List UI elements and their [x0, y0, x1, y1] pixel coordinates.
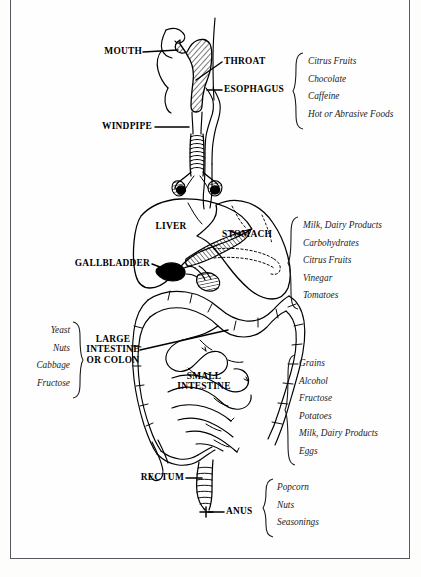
food-item: Nuts: [14, 340, 70, 358]
food-list-large-intestine-irritants: Yeast Nuts Cabbage Fructose: [14, 322, 70, 392]
food-item: Hot or Abrasive Foods: [308, 106, 393, 124]
organ-label-esophagus: ESOPHAGUS: [224, 84, 284, 94]
food-item: Citrus Fruits: [308, 53, 393, 71]
diagram-page: MOUTH THROAT ESOPHAGUS WINDPIPE LIVER ST…: [0, 0, 421, 577]
food-item: Fructose: [14, 375, 70, 393]
food-item: Nuts: [277, 497, 319, 515]
food-item: Fructose: [299, 390, 378, 408]
food-list-small-intestine-irritants: Grains Alcohol Fructose Potatoes Milk, D…: [299, 355, 378, 461]
food-item: Alcohol: [299, 373, 378, 391]
food-list-esophagus-irritants: Citrus Fruits Chocolate Caffeine Hot or …: [308, 53, 393, 123]
organ-label-gallbladder: GALLBLADDER: [22, 258, 150, 268]
organ-label-rectum: RECTUM: [112, 472, 184, 482]
organ-label-large-intestine: LARGE INTESTINE OR COLON: [84, 334, 142, 365]
food-item: Citrus Fruits: [303, 252, 382, 270]
large-intestine-line-2: INTESTINE: [84, 344, 142, 354]
organ-label-stomach: STOMACH: [222, 229, 272, 239]
food-item: Caffeine: [308, 88, 393, 106]
food-item: Yeast: [14, 322, 70, 340]
organ-label-small-intestine: SMALL INTESTINE: [173, 371, 235, 392]
food-item: Chocolate: [308, 71, 393, 89]
food-item: Milk, Dairy Products: [303, 217, 382, 235]
food-item: Eggs: [299, 443, 378, 461]
food-item: Grains: [299, 355, 378, 373]
organ-label-mouth: MOUTH: [46, 46, 142, 56]
small-intestine-line-1: SMALL: [173, 371, 235, 381]
food-list-stomach-irritants: Milk, Dairy Products Carbohydrates Citru…: [303, 217, 382, 305]
leader-large-intestine: [140, 330, 228, 350]
food-item: Potatoes: [299, 408, 378, 426]
food-list-anus-irritants: Popcorn Nuts Seasonings: [277, 479, 319, 532]
small-intestine-line-2: INTESTINE: [173, 381, 235, 391]
leader-throat: [196, 62, 222, 80]
food-item: Vinegar: [303, 270, 382, 288]
leader-mouth: [143, 50, 178, 52]
food-item: Carbohydrates: [303, 235, 382, 253]
organ-label-liver: LIVER: [143, 221, 199, 231]
organ-label-throat: THROAT: [224, 56, 265, 66]
leader-gallbladder: [152, 264, 168, 270]
large-intestine-line-3: OR COLON: [84, 355, 142, 365]
large-intestine-line-1: LARGE: [84, 334, 142, 344]
food-item: Seasonings: [277, 514, 319, 532]
food-item: Milk, Dairy Products: [299, 425, 378, 443]
organ-label-anus: ANUS: [226, 506, 253, 516]
food-item: Tomatoes: [303, 287, 382, 305]
organ-label-windpipe: WINDPIPE: [36, 121, 152, 131]
food-item: Popcorn: [277, 479, 319, 497]
food-item: Cabbage: [14, 357, 70, 375]
